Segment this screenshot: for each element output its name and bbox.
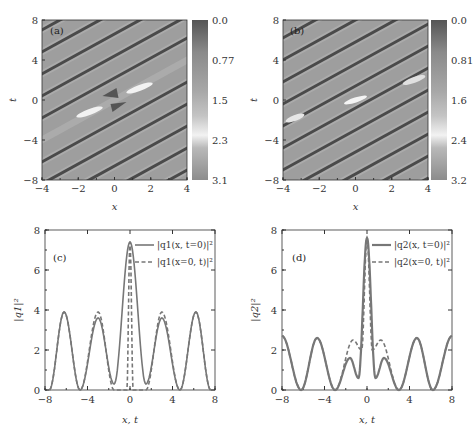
colorbar-tick: 3.1 [212,175,228,186]
colorbar-tick: 0.77 [212,55,234,66]
tick-label: −4 [264,135,279,146]
colorbar [192,20,208,180]
colorbar-tick: 3.2 [451,175,467,186]
tick-label: 4 [34,305,40,316]
x-axis-label: x [112,201,118,212]
tick-label: 4 [406,394,412,405]
panel-a-label: (a) [50,25,64,36]
tick-label: 0 [273,95,279,106]
tick-label: −4 [23,135,38,146]
tick-label: 0 [34,385,40,396]
tick-label: −2 [312,183,327,194]
tick-label: 8 [449,394,455,405]
colorbar-tick: 2.4 [451,135,467,146]
tick-label: −4 [80,394,95,405]
y-axis-label: |q1|² [12,298,24,322]
line-plot-panel [45,230,215,390]
line-plot-panel [282,230,452,390]
tick-label: 0 [111,183,117,194]
tick-label: −8 [264,175,279,186]
colorbar-tick: 0.81 [451,55,473,66]
tick-label: 8 [212,394,218,405]
y-axis-label: |q2|² [249,298,261,322]
tick-label: −8 [23,175,38,186]
x-axis-label: x, t [122,414,139,425]
tick-label: 4 [425,183,431,194]
panel-d-label: (d) [292,252,306,263]
tick-label: 8 [273,15,279,26]
colorbar-tick: 0.0 [212,15,228,26]
tick-label: 4 [184,183,190,194]
tick-label: 6 [34,265,40,276]
legend-entry: |q1(x, t=0)|² [157,240,213,251]
tick-label: 2 [389,183,395,194]
tick-label: −2 [71,183,86,194]
colorbar-tick: 1.5 [212,95,228,106]
panel-c-label: (c) [53,252,66,263]
colorbar-tick: 1.6 [451,95,467,106]
panel-b-label: (b) [290,25,304,36]
tick-label: 4 [169,394,175,405]
tick-label: 6 [271,265,277,276]
colorbar [431,20,447,180]
tick-label: 4 [32,55,38,66]
tick-label: 4 [271,305,277,316]
tick-label: −4 [317,394,332,405]
tick-label: 0 [127,394,133,405]
tick-label: 8 [34,225,40,236]
tick-label: 4 [273,55,279,66]
tick-label: 8 [271,225,277,236]
tick-label: 2 [271,345,277,356]
colorbar-tick: 0.0 [451,15,467,26]
tick-label: 0 [364,394,370,405]
tick-label: 8 [32,15,38,26]
figure: −4−2024840−4−8xt0.00.771.52.33.1−4−20248… [0,0,475,435]
tick-label: 0 [352,183,358,194]
x-axis-label: x, t [359,414,376,425]
tick-label: 2 [148,183,154,194]
legend-entry: |q2(x, t=0)|² [394,240,450,251]
tick-label: 0 [32,95,38,106]
colorbar-tick: 2.3 [212,135,228,146]
legend-entry: |q1(x=0, t)|² [157,257,213,268]
y-axis-label: t [248,97,259,102]
tick-label: 0 [271,385,277,396]
legend-entry: |q2(x=0, t)|² [394,257,450,268]
tick-label: 2 [34,345,40,356]
y-axis-label: t [7,97,18,102]
x-axis-label: x [353,201,359,212]
